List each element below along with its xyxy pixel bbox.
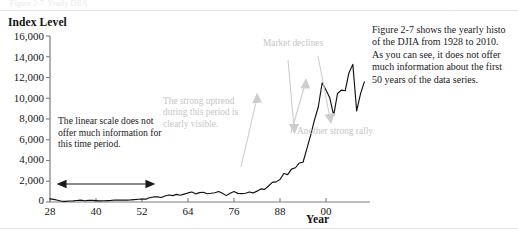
annotation-arrows [241, 56, 334, 167]
caption-line: Figure 2-7 shows the yearly histo [372, 24, 518, 36]
caption-line: 50 years of the data series. [372, 74, 518, 86]
uptrend-arrow-icon [241, 94, 261, 167]
x-tick-label: 40 [82, 205, 110, 217]
x-tick-label: 88 [266, 205, 294, 217]
rally-arrow-icon [291, 80, 309, 134]
market-declines-note: Market declines [263, 38, 355, 49]
x-tick-label: 76 [220, 205, 248, 217]
x-tick-label: 64 [174, 205, 202, 217]
y-tick-label: 12,000 [0, 71, 44, 83]
caption-line: of the DJIA from 1928 to 2010. [372, 36, 518, 48]
y-tick-label: 2,000 [0, 174, 44, 186]
another-rally-note: Another strong rally [297, 126, 397, 137]
y-tick-label: 16,000 [0, 30, 44, 42]
figure-caption: Figure 2-7 shows the yearly histo of the… [372, 24, 518, 86]
uptrend-note: The strong uptrend during this period is… [163, 96, 241, 130]
x-tick-label: 28 [36, 205, 64, 217]
y-tick-label: 8,000 [0, 112, 44, 124]
y-tick-label: 10,000 [0, 92, 44, 104]
y-tick-label: 4,000 [0, 153, 44, 165]
x-axis-title: Year [306, 213, 329, 225]
figure-panel: Figure 2-7. Yearly DJIA Index Level [0, 0, 518, 239]
y-tick-label: 6,000 [0, 133, 44, 145]
decline-arrow-left-icon [288, 60, 298, 133]
caption-line: As you can see, it does not offer [372, 49, 518, 61]
chart-plot-area: 16,000 14,000 12,000 10,000 8,000 6,000 … [0, 0, 400, 239]
x-tick-label: 52 [128, 205, 156, 217]
flat-period-span-arrow [58, 181, 154, 188]
linear-scale-note: The linear scale does not offer much inf… [58, 115, 162, 150]
caption-line: much information about the first [372, 61, 518, 73]
y-tick-label: 14,000 [0, 51, 44, 63]
